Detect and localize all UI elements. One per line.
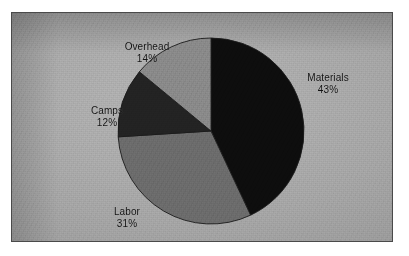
pie-label-materials: Materials 43% xyxy=(290,72,366,95)
pie-label-labor-name: Labor xyxy=(94,206,160,218)
pie-slice-group xyxy=(118,38,304,224)
pie-label-camps-name: Camps xyxy=(74,105,140,117)
pie-label-overhead-name: Overhead xyxy=(106,41,188,53)
pie-label-camps-value: 12% xyxy=(74,117,140,129)
pie-label-overhead-value: 14% xyxy=(106,53,188,65)
pie-label-labor: Labor 31% xyxy=(94,206,160,229)
chart-frame: Overhead 14% Materials 43% Camps 12% Lab… xyxy=(11,12,393,242)
pie-label-overhead: Overhead 14% xyxy=(106,41,188,64)
pie-label-labor-value: 31% xyxy=(94,218,160,230)
screenshot-root: Overhead 14% Materials 43% Camps 12% Lab… xyxy=(0,0,409,256)
pie-label-materials-name: Materials xyxy=(290,72,366,84)
pie-chart xyxy=(12,13,392,241)
pie-label-materials-value: 43% xyxy=(290,84,366,96)
pie-label-camps: Camps 12% xyxy=(74,105,140,128)
pie-chart-svg xyxy=(12,13,393,242)
